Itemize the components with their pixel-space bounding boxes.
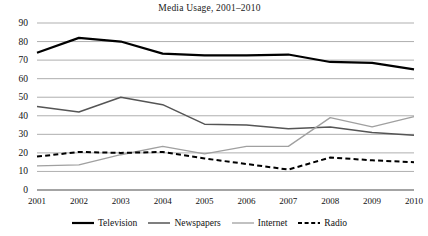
y-tick-label: 90 [2,18,28,28]
x-tick-label: 2007 [268,196,308,206]
y-tick-label: 40 [2,111,28,121]
y-tick-label: 10 [2,166,28,176]
legend-item-internet[interactable]: Internet [232,218,288,228]
x-tick-label: 2002 [59,196,99,206]
y-tick-label: 0 [2,185,28,195]
solid-medium-gray-line-icon [148,219,170,227]
y-tick-label: 60 [2,74,28,84]
x-tick-label: 2001 [17,196,57,206]
legend-label: Television [98,218,137,228]
y-tick-label: 30 [2,129,28,139]
solid-thick-black-line-icon [72,219,94,227]
solid-thin-lightgray-line-icon [232,219,254,227]
y-tick-label: 20 [2,148,28,158]
x-tick-label: 2009 [352,196,392,206]
legend-label: Internet [258,218,288,228]
dashed-black-line-icon [298,219,320,227]
legend-item-radio[interactable]: Radio [298,218,347,228]
x-tick-label: 2006 [226,196,266,206]
legend-item-newspapers[interactable]: Newspapers [148,218,220,228]
x-tick-label: 2005 [185,196,225,206]
x-tick-label: 2003 [101,196,141,206]
x-tick-label: 2008 [310,196,350,206]
chart-legend: TelevisionNewspapersInternetRadio [0,218,419,228]
x-tick-label: 2010 [394,196,428,206]
y-tick-label: 80 [2,37,28,47]
series-line-newspapers [37,97,414,135]
series-line-television [37,38,414,70]
y-tick-label: 50 [2,92,28,102]
x-tick-label: 2004 [143,196,183,206]
legend-label: Newspapers [174,218,220,228]
y-tick-label: 70 [2,55,28,65]
legend-label: Radio [324,218,347,228]
legend-item-television[interactable]: Television [72,218,137,228]
